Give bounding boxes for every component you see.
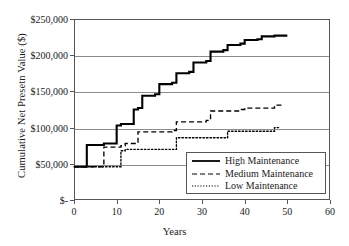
legend-swatch-dashed-icon — [191, 169, 221, 179]
legend-label-high: High Maintenance — [225, 156, 299, 166]
legend-swatch-dotted-icon — [191, 181, 221, 191]
legend-label-medium: Medium Maintenance — [225, 169, 313, 179]
legend-item-high: High Maintenance — [191, 155, 321, 168]
legend-item-low: Low Maintenance — [191, 180, 321, 193]
npv-line-chart: Cumulative Net Presetn Value ($) $-$50,0… — [0, 0, 349, 246]
x-axis-title: Years — [0, 226, 349, 237]
series-layer — [0, 0, 349, 246]
legend-swatch-solid-icon — [191, 156, 221, 166]
legend: High Maintenance Medium Maintenance Low … — [186, 152, 326, 194]
legend-label-low: Low Maintenance — [225, 181, 297, 191]
legend-item-medium: Medium Maintenance — [191, 168, 321, 181]
